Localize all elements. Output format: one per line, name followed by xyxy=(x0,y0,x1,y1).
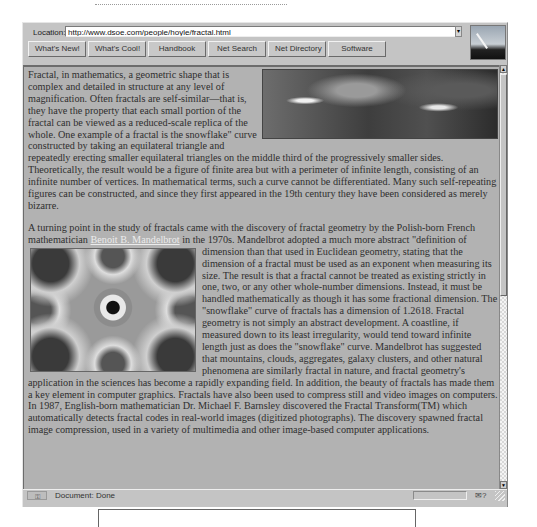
comet-beam xyxy=(476,33,488,49)
url-input[interactable]: http://www.dsoe.com/people/hoyle/fractal… xyxy=(65,26,461,37)
fractal-banner-image xyxy=(262,69,498,139)
scroll-down-arrow-icon[interactable]: ▼ xyxy=(500,481,507,489)
location-toolbar: Location: http://www.dsoe.com/people/hoy… xyxy=(23,23,507,65)
resize-grip-icon[interactable] xyxy=(495,491,505,501)
location-label: Location: xyxy=(33,28,65,37)
status-bar: ⚿ Document: Done ✉? xyxy=(23,489,507,502)
vertical-scrollbar[interactable]: ▲ ▼ xyxy=(499,65,507,489)
mail-icon[interactable]: ✉? xyxy=(475,490,486,501)
scroll-thumb[interactable] xyxy=(500,74,507,296)
scroll-up-arrow-icon[interactable]: ▲ xyxy=(500,65,507,73)
progress-cell xyxy=(413,491,467,500)
security-key-icon[interactable]: ⚿ xyxy=(27,491,47,500)
mandelbrot-link[interactable]: Benoit B. Mandelbrot xyxy=(91,234,180,245)
status-text: Document: Done xyxy=(55,490,115,501)
paragraph-text-after-link: in the 1970s. Mandelbrot adopted a much … xyxy=(28,234,498,436)
page-content: Fractal, in mathematics, a geometric sha… xyxy=(23,65,499,489)
paragraph-mandelbrot: A turning point in the study of fractals… xyxy=(28,222,498,436)
url-dropdown-arrow-icon[interactable]: ▾ xyxy=(455,26,462,37)
directory-buttons: What's New! What's Cool! Handbook Net Se… xyxy=(28,41,386,57)
browser-window: Location: http://www.dsoe.com/people/hoy… xyxy=(22,22,508,507)
handbook-button[interactable]: Handbook xyxy=(148,41,206,57)
article: Fractal, in mathematics, a geometric sha… xyxy=(28,69,498,446)
net-directory-button[interactable]: Net Directory xyxy=(268,41,326,57)
netscape-logo-icon[interactable] xyxy=(470,25,506,60)
software-button[interactable]: Software xyxy=(328,41,386,57)
text-run-1: in the 1970s. Mandelbrot adopted a much … xyxy=(180,234,467,257)
mandelbrot-set-image xyxy=(30,248,196,372)
dotted-rule xyxy=(95,4,287,5)
net-search-button[interactable]: Net Search xyxy=(208,41,266,57)
whats-new-button[interactable]: What's New! xyxy=(28,41,86,57)
bottom-frame xyxy=(98,509,416,527)
whats-cool-button[interactable]: What's Cool! xyxy=(88,41,146,57)
